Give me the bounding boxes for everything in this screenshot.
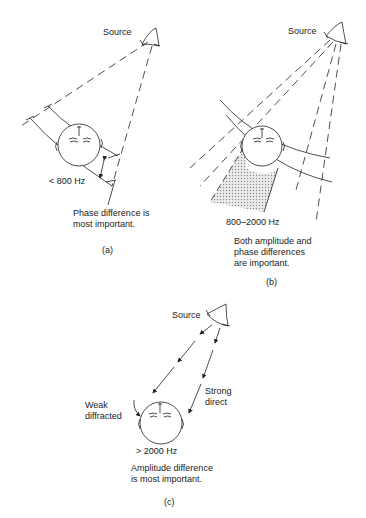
panel-c: [134, 304, 230, 444]
description-line: phase differences: [234, 247, 312, 258]
description-a: Phase difference is most important.: [73, 208, 149, 230]
speaker-icon: [140, 28, 160, 46]
caption-b: (b): [266, 277, 277, 288]
panel-a: [18, 28, 160, 205]
label-line: direct: [205, 397, 232, 408]
weak-diffracted-label: Weak diffracted: [85, 400, 122, 422]
label-line: Strong: [205, 386, 232, 397]
panel-b: [190, 22, 348, 222]
strong-direct-label: Strong direct: [205, 386, 232, 408]
source-label-b: Source: [288, 26, 317, 37]
caption-a: (a): [102, 245, 113, 256]
label-line: Weak: [85, 400, 122, 411]
source-label-a: Source: [103, 27, 132, 38]
description-line: Amplitude difference: [131, 463, 213, 474]
frequency-label-a: < 800 Hz: [49, 176, 85, 187]
description-line: Phase difference is: [73, 208, 149, 219]
description-line: are important.: [234, 258, 312, 269]
frequency-label-b: 800–2000 Hz: [226, 217, 280, 228]
speaker-icon: [206, 304, 230, 326]
head-icon: [56, 124, 103, 166]
description-line: Both amplitude and: [234, 236, 312, 247]
head-icon: [139, 402, 184, 444]
speaker-icon: [324, 22, 348, 44]
source-label-c: Source: [172, 310, 201, 321]
description-b: Both amplitude and phase differences are…: [234, 236, 312, 269]
description-line: most important.: [73, 219, 149, 230]
description-line: is most important.: [131, 474, 213, 485]
label-line: diffracted: [85, 411, 122, 422]
description-c: Amplitude difference is most important.: [131, 463, 213, 485]
frequency-label-c: > 2000 Hz: [136, 446, 177, 457]
caption-c: (c): [164, 497, 175, 508]
